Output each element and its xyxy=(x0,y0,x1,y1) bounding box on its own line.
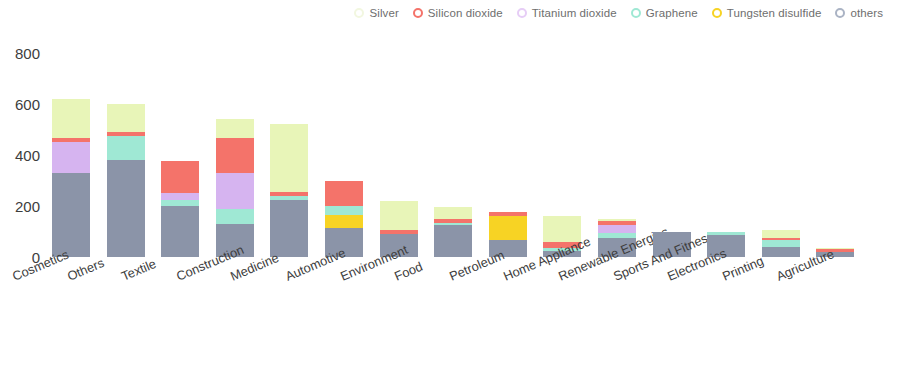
bar-segment-graphene[interactable] xyxy=(216,209,254,224)
bar-segment-titanium-dioxide[interactable] xyxy=(52,142,90,173)
bar-stack[interactable] xyxy=(52,99,90,257)
bar-stack[interactable] xyxy=(325,181,363,257)
bar-segment-others[interactable] xyxy=(434,225,472,257)
bar-group xyxy=(598,53,636,257)
bar-segment-silver[interactable] xyxy=(434,207,472,218)
bar-stack[interactable] xyxy=(107,104,145,257)
bar-segment-silver[interactable] xyxy=(216,119,254,138)
bar-group xyxy=(489,53,527,257)
bar-segment-silicon-dioxide[interactable] xyxy=(216,138,254,172)
bar-segment-others[interactable] xyxy=(107,160,145,257)
bar-segment-others[interactable] xyxy=(161,206,199,257)
bars-layer: CosmeticsOthersTextileConstructionMedici… xyxy=(0,0,899,389)
bar-group xyxy=(653,53,691,257)
bar-group xyxy=(270,53,308,257)
bar-segment-tungsten-disulfide[interactable] xyxy=(325,215,363,228)
bar-group xyxy=(52,53,90,257)
bar-stack[interactable] xyxy=(434,207,472,257)
bar-segment-tungsten-disulfide[interactable] xyxy=(489,216,527,240)
bar-group xyxy=(161,53,199,257)
bar-segment-silicon-dioxide[interactable] xyxy=(325,181,363,207)
bar-group xyxy=(380,53,418,257)
bar-group xyxy=(107,53,145,257)
bar-segment-others[interactable] xyxy=(762,247,800,257)
bar-segment-silver[interactable] xyxy=(762,230,800,238)
bar-segment-silver[interactable] xyxy=(270,124,308,192)
bar-stack[interactable] xyxy=(762,230,800,257)
bar-group xyxy=(434,53,472,257)
bar-group xyxy=(707,53,745,257)
bar-stack[interactable] xyxy=(270,124,308,257)
bar-segment-others[interactable] xyxy=(270,200,308,257)
bar-segment-titanium-dioxide[interactable] xyxy=(216,173,254,209)
bar-segment-silicon-dioxide[interactable] xyxy=(161,161,199,193)
bar-segment-silver[interactable] xyxy=(107,104,145,132)
bar-group xyxy=(325,53,363,257)
bar-group xyxy=(816,53,854,257)
bar-segment-silver[interactable] xyxy=(52,99,90,139)
bar-stack[interactable] xyxy=(216,119,254,257)
x-axis-label-cosmetics: Cosmetics xyxy=(10,247,71,284)
bar-segment-others[interactable] xyxy=(52,173,90,257)
bar-segment-silver[interactable] xyxy=(380,201,418,230)
x-axis-label-food: Food xyxy=(392,259,425,284)
bar-stack[interactable] xyxy=(161,161,199,257)
bar-segment-titanium-dioxide[interactable] xyxy=(598,225,636,233)
bar-segment-graphene[interactable] xyxy=(107,136,145,160)
stacked-bar-chart: SilverSilicon dioxideTitanium dioxideGra… xyxy=(0,0,899,389)
bar-segment-graphene[interactable] xyxy=(325,206,363,215)
bar-group xyxy=(216,53,254,257)
bar-group xyxy=(762,53,800,257)
x-axis-label-textile: Textile xyxy=(119,256,158,284)
bar-group xyxy=(543,53,581,257)
